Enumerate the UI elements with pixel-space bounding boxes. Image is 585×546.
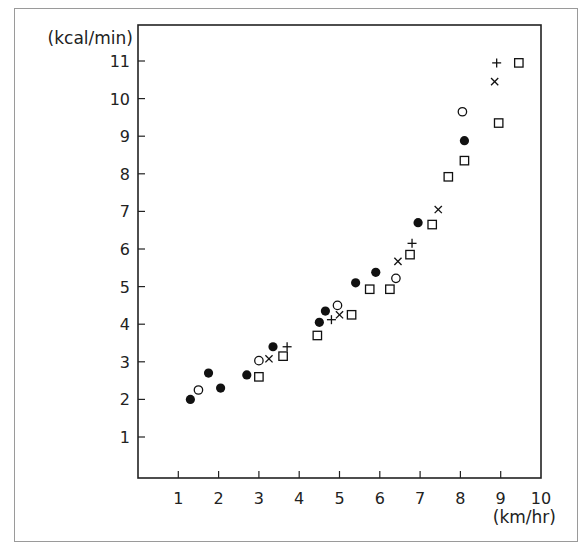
x-axis-ticks: 12345678910 bbox=[173, 471, 551, 508]
x-tick-label: 1 bbox=[173, 489, 183, 508]
series-open-circle bbox=[194, 108, 466, 395]
data-point-open-square bbox=[347, 311, 355, 319]
data-point-filled-circle bbox=[268, 342, 277, 351]
data-point-filled-circle bbox=[315, 318, 324, 327]
series-open-square bbox=[255, 59, 523, 381]
y-tick-label: 4 bbox=[120, 315, 130, 334]
scatter-chart: 12345678910 1234567891011 (kcal/min) (km… bbox=[0, 0, 585, 546]
data-points bbox=[186, 58, 523, 404]
y-tick-label: 9 bbox=[120, 127, 130, 146]
data-point-plus bbox=[492, 58, 501, 67]
x-tick-label: 7 bbox=[415, 489, 425, 508]
x-tick-label: 5 bbox=[334, 489, 344, 508]
y-tick-label: 8 bbox=[120, 165, 130, 184]
y-tick-label: 5 bbox=[120, 278, 130, 297]
data-point-filled-circle bbox=[460, 136, 469, 145]
data-point-open-square bbox=[366, 285, 374, 293]
data-point-filled-circle bbox=[371, 268, 380, 277]
data-point-cross bbox=[491, 78, 498, 85]
x-tick-label: 6 bbox=[375, 489, 385, 508]
y-axis-label: (kcal/min) bbox=[48, 28, 133, 48]
y-tick-label: 7 bbox=[120, 202, 130, 221]
data-point-filled-circle bbox=[204, 368, 213, 377]
data-point-plus bbox=[283, 342, 292, 351]
data-point-filled-circle bbox=[186, 395, 195, 404]
data-point-open-square bbox=[313, 331, 321, 339]
x-tick-label: 4 bbox=[294, 489, 304, 508]
series-cross bbox=[265, 78, 498, 362]
y-tick-label: 10 bbox=[110, 90, 130, 109]
x-tick-label: 2 bbox=[214, 489, 224, 508]
data-point-filled-circle bbox=[216, 384, 225, 393]
y-tick-label: 1 bbox=[120, 428, 130, 447]
data-point-open-square bbox=[494, 119, 502, 127]
x-axis-label: (km/hr) bbox=[493, 507, 556, 527]
data-point-cross bbox=[336, 311, 343, 318]
axes bbox=[138, 25, 541, 478]
x-tick-label: 10 bbox=[531, 489, 551, 508]
data-point-filled-circle bbox=[321, 306, 330, 315]
data-point-open-circle bbox=[333, 301, 341, 309]
data-point-open-circle bbox=[392, 274, 400, 282]
plot-area-border bbox=[138, 25, 541, 478]
y-tick-label: 3 bbox=[120, 353, 130, 372]
x-tick-label: 3 bbox=[254, 489, 264, 508]
data-point-open-square bbox=[255, 373, 263, 381]
series-filled-circle bbox=[186, 136, 469, 404]
y-tick-label: 2 bbox=[120, 390, 130, 409]
data-point-open-square bbox=[444, 173, 452, 181]
series-plus bbox=[283, 58, 502, 351]
data-point-open-circle bbox=[458, 108, 466, 116]
data-point-cross bbox=[265, 355, 272, 362]
data-point-open-circle bbox=[255, 356, 263, 364]
data-point-open-square bbox=[428, 220, 436, 228]
data-point-cross bbox=[435, 206, 442, 213]
data-point-open-square bbox=[515, 59, 523, 67]
data-point-plus bbox=[327, 315, 336, 324]
data-point-cross bbox=[394, 258, 401, 265]
data-point-filled-circle bbox=[413, 218, 422, 227]
data-point-open-square bbox=[406, 250, 414, 258]
data-point-filled-circle bbox=[242, 370, 251, 379]
data-point-open-square bbox=[279, 352, 287, 360]
data-point-open-square bbox=[386, 285, 394, 293]
y-tick-label: 6 bbox=[120, 240, 130, 259]
x-tick-label: 8 bbox=[455, 489, 465, 508]
data-point-open-circle bbox=[194, 386, 202, 394]
x-tick-label: 9 bbox=[496, 489, 506, 508]
y-axis-ticks: 1234567891011 bbox=[110, 52, 145, 447]
y-tick-label: 11 bbox=[110, 52, 130, 71]
data-point-plus bbox=[408, 239, 417, 248]
data-point-filled-circle bbox=[351, 278, 360, 287]
data-point-open-square bbox=[460, 156, 468, 164]
